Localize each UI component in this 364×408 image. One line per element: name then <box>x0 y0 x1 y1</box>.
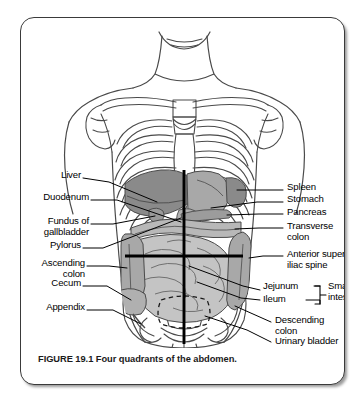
label-liver-text: Liver <box>61 169 81 180</box>
label-cecum-text: Cecum <box>51 277 81 288</box>
label-descending-colon: Descending colon <box>275 315 324 336</box>
label-stomach: Stomach <box>287 194 324 205</box>
label-urinary-bladder-text: Urinary bladder <box>275 335 338 346</box>
label-pancreas-text: Pancreas <box>287 206 326 217</box>
label-asis-line2: iliac spine <box>287 259 327 270</box>
figure-caption: FIGURE 19.1 Four quadrants of the abdome… <box>21 354 345 364</box>
label-fundus-of-gallbladder: Fundus of gallbladder <box>21 216 89 237</box>
label-pylorus: Pylorus <box>21 240 81 251</box>
label-ileum-text: Ileum <box>263 293 286 304</box>
label-small-intestine: Small intestine <box>328 281 345 302</box>
label-asis-line1: Anterior superior <box>287 248 345 259</box>
leader-descending-colon <box>235 306 271 322</box>
label-stomach-text: Stomach <box>287 193 324 204</box>
label-appendix-text: Appendix <box>46 301 85 312</box>
label-fundus-line2: gallbladder <box>44 226 89 237</box>
label-pancreas: Pancreas <box>287 207 326 218</box>
label-transverse-line1: Transverse <box>287 220 333 231</box>
label-anterior-superior-iliac-spine: Anterior superior iliac spine <box>287 249 345 270</box>
label-small-intestine-line1: Small <box>328 280 345 291</box>
label-transverse-line2: colon <box>287 231 309 242</box>
label-fundus-line1: Fundus of <box>48 215 89 226</box>
label-descending-line1: Descending <box>275 314 324 325</box>
leader-transverse-colon <box>235 228 283 229</box>
label-small-intestine-line2: intestine <box>328 291 345 302</box>
label-liver: Liver <box>21 170 81 181</box>
bracket-ileum-tick <box>306 300 320 304</box>
label-transverse-colon: Transverse colon <box>287 221 333 242</box>
label-jejunum-text: Jejunum <box>263 280 298 291</box>
label-urinary-bladder: Urinary bladder <box>275 336 338 347</box>
leader-asis <box>249 256 283 258</box>
leader-pancreas <box>227 214 283 215</box>
label-cecum: Cecum <box>21 278 81 289</box>
label-ileum: Ileum <box>263 294 286 305</box>
cecum <box>117 289 146 315</box>
figure-card: Liver Duodenum Fundus of gallbladder Pyl… <box>20 17 345 385</box>
label-spleen-text: Spleen <box>287 181 316 192</box>
label-jejunum: Jejunum <box>263 281 298 292</box>
label-descending-line2: colon <box>275 325 297 336</box>
label-ascending-line1: Ascending <box>42 257 85 268</box>
label-appendix: Appendix <box>21 302 85 313</box>
label-spleen: Spleen <box>287 182 316 193</box>
label-duodenum-text: Duodenum <box>43 191 89 202</box>
label-ascending-colon: Ascending colon <box>21 258 85 279</box>
leader-urinary-bladder <box>205 316 271 342</box>
label-duodenum: Duodenum <box>21 192 89 203</box>
label-pylorus-text: Pylorus <box>50 239 81 250</box>
